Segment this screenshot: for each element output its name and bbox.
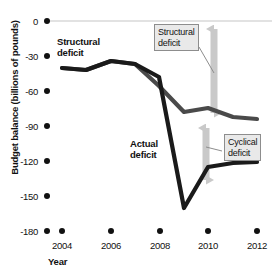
structural-deficit-inline-line2: deficit bbox=[57, 47, 100, 58]
cyclical-deficit-callout: Cyclical deficit bbox=[224, 134, 261, 161]
structural-deficit-callout-line1: Structural bbox=[158, 27, 195, 38]
structural-deficit-callout-line2: deficit bbox=[158, 38, 195, 49]
actual-deficit-inline-line2: deficit bbox=[130, 149, 158, 160]
actual-deficit-inline-label: Actual deficit bbox=[130, 138, 158, 160]
structural-deficit-inline-label: Structural deficit bbox=[57, 36, 100, 58]
cyclical-deficit-callout-line2: deficit bbox=[228, 148, 257, 159]
cyclical-deficit-callout-line1: Cyclical bbox=[228, 137, 257, 148]
actual-deficit-inline-line1: Actual bbox=[130, 138, 158, 149]
structural-deficit-inline-line1: Structural bbox=[57, 36, 100, 47]
structural-deficit-callout: Structural deficit bbox=[154, 24, 199, 51]
budget-balance-chart: Budget balance (billions of pounds) 0 -3… bbox=[0, 0, 278, 276]
